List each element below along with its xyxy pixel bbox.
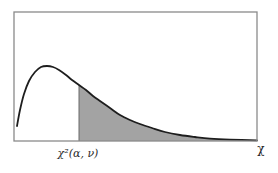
chi-square-chart: χ²(α, ν) χ <box>0 0 278 173</box>
x-axis-label: χ <box>257 142 265 156</box>
critical-value-label: χ²(α, ν) <box>57 147 99 160</box>
